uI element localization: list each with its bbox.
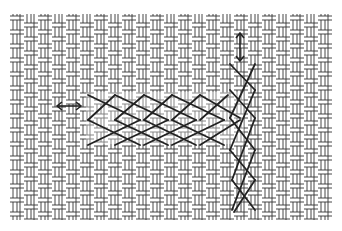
horizontal-stitch-row bbox=[86, 92, 244, 145]
canvas-illustration bbox=[0, 0, 342, 231]
